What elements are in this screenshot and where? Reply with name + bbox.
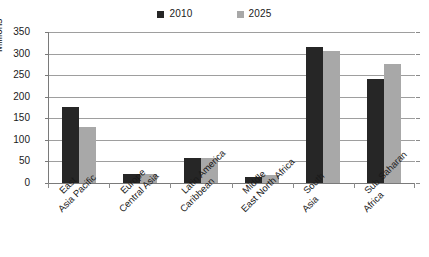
y-tick-label: 150 [0, 113, 30, 123]
legend-entry-2010: 2010 [157, 9, 192, 19]
y-tick-label: 0 [0, 178, 30, 188]
y-tick-mark [45, 75, 49, 76]
y-tick-mark [45, 32, 49, 33]
chart-legend: 2010 2025 [0, 5, 429, 23]
gridline [49, 140, 415, 141]
bar-2025-south-asia [323, 51, 340, 183]
y-tick-mark [45, 140, 49, 141]
y-tick-mark [45, 161, 49, 162]
y-tick-mark-right [416, 118, 420, 119]
y-tick-mark-right [416, 54, 420, 55]
legend-label-2025: 2025 [249, 9, 272, 19]
y-tick-mark-right [416, 140, 420, 141]
gridline [49, 54, 415, 55]
x-axis-labels: EastAsia PacificEuropeCentral AsiaLatin … [48, 188, 415, 257]
y-tick-mark [45, 97, 49, 98]
bar-chart: 2010 2025 Millions 050100150200250300350… [0, 0, 429, 257]
y-tick-mark [45, 118, 49, 119]
gridline [49, 75, 415, 76]
y-tick-label: 50 [0, 156, 30, 166]
legend-swatch-2025 [237, 11, 244, 18]
y-tick-mark-right [416, 75, 420, 76]
gridline [49, 118, 415, 119]
legend-entry-2025: 2025 [237, 9, 272, 19]
y-tick-mark-right [416, 32, 420, 33]
y-tick-mark [45, 54, 49, 55]
gridline [49, 32, 415, 33]
legend-label-2010: 2010 [169, 9, 192, 19]
y-tick-label: 100 [0, 135, 30, 145]
legend-swatch-2010 [157, 11, 164, 18]
bar-2010-south-asia [306, 47, 323, 183]
y-tick-label: 250 [0, 70, 30, 80]
y-tick-mark-right [416, 183, 420, 184]
y-tick-mark-right [416, 161, 420, 162]
y-tick-label: 200 [0, 92, 30, 102]
y-tick-mark-right [416, 97, 420, 98]
gridline [49, 97, 415, 98]
y-tick-label: 300 [0, 49, 30, 59]
y-tick-label: 350 [0, 27, 30, 37]
